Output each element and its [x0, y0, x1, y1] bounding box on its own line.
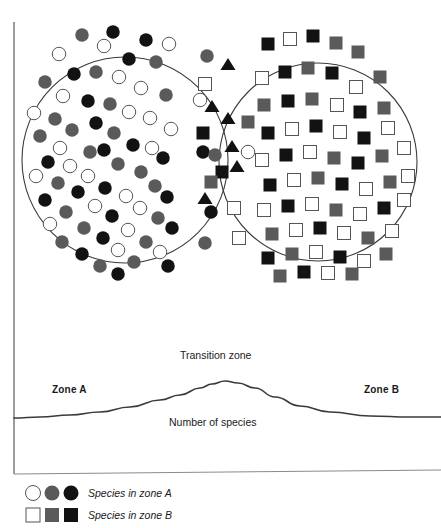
zone-b-symbol-cluster	[256, 30, 415, 283]
species-symbol-square-white	[310, 246, 323, 259]
graph-axes	[14, 22, 441, 474]
species-symbol-triangle-black	[220, 112, 235, 124]
species-symbol-circle-white	[121, 223, 135, 237]
species-symbol-square-black	[262, 127, 275, 140]
species-symbol-circle-gray	[75, 28, 89, 42]
species-symbol-square-gray	[286, 248, 299, 261]
species-symbol-square-black	[298, 266, 311, 279]
species-symbol-circle-white	[241, 145, 255, 159]
species-symbol-circle-gray	[45, 486, 60, 501]
species-symbol-square-gray	[352, 46, 365, 59]
species-symbol-square-gray	[205, 176, 218, 189]
species-symbol-square-gray	[242, 116, 255, 129]
species-symbol-circle-gray	[159, 88, 173, 102]
species-symbol-circle-white	[63, 159, 77, 173]
species-symbol-square-gray	[346, 268, 359, 281]
species-symbol-circle-black	[81, 94, 95, 108]
species-symbol-circle-white	[162, 37, 176, 51]
species-symbol-circle-white	[133, 201, 147, 215]
species-symbol-circle-gray	[148, 179, 162, 193]
species-symbol-circle-black	[64, 486, 79, 501]
species-symbol-square-black	[326, 67, 339, 80]
species-symbol-square-white	[350, 81, 363, 94]
species-symbol-square-white	[256, 72, 269, 85]
species-symbol-square-white	[338, 227, 351, 240]
species-symbol-square-white	[354, 208, 367, 221]
species-symbol-circle-black	[111, 267, 125, 281]
species-symbol-square-gray	[374, 71, 387, 84]
species-symbol-circle-white	[153, 245, 167, 259]
species-symbol-circle-gray	[200, 49, 214, 63]
species-symbol-circle-white	[193, 93, 207, 107]
number-of-species-label: Number of species	[169, 416, 257, 428]
species-symbol-square-gray	[302, 62, 315, 75]
species-symbol-square-black	[334, 251, 347, 264]
species-symbol-square-white	[331, 99, 344, 112]
species-symbol-square-black	[279, 66, 292, 79]
species-symbol-square-white	[233, 232, 246, 245]
species-symbol-circle-white	[26, 486, 41, 501]
transition-zone-label: Transition zone	[180, 349, 251, 361]
species-symbol-triangle-black	[220, 58, 235, 70]
species-symbol-square-black	[64, 508, 78, 522]
species-symbol-circle-white	[164, 122, 178, 136]
species-symbol-circle-black	[89, 116, 103, 130]
species-symbol-circle-black	[97, 143, 111, 157]
species-symbol-square-white	[358, 255, 371, 268]
species-symbol-circle-gray	[107, 126, 121, 140]
species-symbol-square-gray	[266, 228, 279, 241]
species-symbol-circle-gray	[48, 112, 62, 126]
species-symbol-circle-black	[165, 221, 179, 235]
species-symbol-circle-white	[143, 111, 157, 125]
species-symbol-circle-gray	[208, 148, 222, 162]
species-symbol-circle-white	[43, 217, 57, 231]
species-symbol-circle-gray	[134, 165, 148, 179]
species-symbol-square-black	[307, 30, 320, 43]
species-symbol-square-black	[358, 132, 371, 145]
legend-label-zone-b: Species in zone B	[88, 509, 172, 521]
species-symbol-square-black	[314, 222, 327, 235]
species-symbol-square-black	[310, 120, 323, 133]
species-symbol-circle-white	[29, 169, 43, 183]
transition-symbol-cluster	[193, 49, 255, 250]
species-symbol-circle-white	[81, 169, 95, 183]
species-symbol-circle-white	[112, 70, 126, 84]
species-symbol-square-black	[264, 179, 277, 192]
species-symbol-square-black	[280, 149, 293, 162]
species-symbol-square-white	[256, 154, 269, 167]
species-symbol-triangle-black	[197, 192, 212, 204]
species-symbol-circle-gray	[83, 145, 97, 159]
zone-a-symbol-cluster	[27, 25, 179, 281]
species-symbol-circle-gray	[139, 235, 153, 249]
species-symbol-square-black	[336, 178, 349, 191]
species-symbol-square-white	[306, 198, 319, 211]
species-symbol-square-gray	[258, 99, 271, 112]
species-symbol-square-black	[352, 157, 365, 170]
legend-label-zone-a: Species in zone A	[88, 487, 172, 499]
species-symbol-circle-gray	[111, 157, 125, 171]
species-symbol-circle-gray	[65, 123, 79, 137]
species-symbol-square-white	[284, 33, 297, 46]
species-symbol-circle-gray	[151, 211, 165, 225]
x-axis-line	[14, 470, 441, 474]
zone-b-label: Zone B	[364, 384, 399, 395]
species-symbol-square-black	[262, 38, 275, 51]
species-symbol-circle-black	[67, 67, 81, 81]
species-symbol-square-white	[258, 204, 271, 217]
species-symbol-circle-black	[38, 193, 52, 207]
species-symbol-circle-black	[75, 247, 89, 261]
species-symbol-circle-black	[98, 181, 112, 195]
species-symbol-circle-white	[119, 189, 133, 203]
species-symbol-circle-gray	[59, 205, 73, 219]
species-symbol-circle-gray	[198, 236, 212, 250]
species-symbol-circle-white	[145, 141, 159, 155]
species-symbol-triangle-black	[229, 160, 244, 172]
species-symbol-square-white	[402, 170, 415, 183]
figure-canvas: Transition zone Zone A Zone B Number of …	[0, 0, 441, 528]
species-symbol-circle-black	[161, 259, 175, 273]
species-symbol-circle-black	[122, 52, 136, 66]
species-symbol-circle-gray	[89, 65, 103, 79]
species-symbol-square-black	[378, 202, 391, 215]
species-symbol-circle-black	[41, 155, 55, 169]
species-symbol-square-black	[197, 127, 210, 140]
